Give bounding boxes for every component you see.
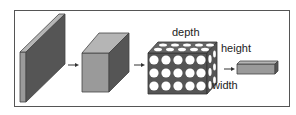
input-volume-slab	[20, 14, 65, 102]
width-label: width	[212, 80, 238, 91]
height-label: height	[221, 43, 251, 54]
arrow-right-icon	[224, 67, 235, 71]
output-bar	[237, 61, 278, 74]
arrow-right-icon	[68, 63, 79, 67]
cnn-volume-diagram	[0, 0, 296, 115]
conv-volume-cube	[82, 33, 129, 92]
neuron-grid-volume	[148, 42, 217, 94]
depth-label: depth	[172, 27, 200, 38]
arrow-right-icon	[134, 63, 145, 67]
